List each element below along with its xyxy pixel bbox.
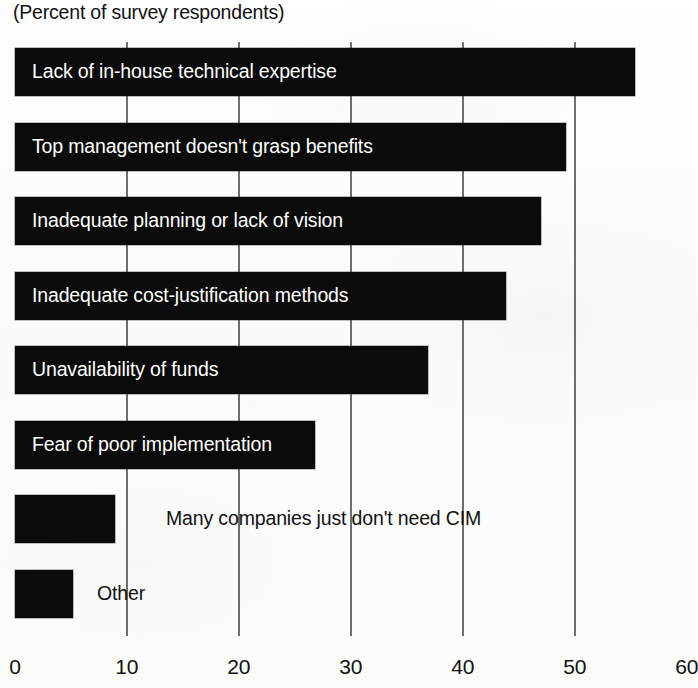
bar-7: [15, 495, 115, 543]
bar-8: [15, 570, 73, 618]
x-tick-label-20: 20: [227, 655, 250, 679]
bar-label-1: Lack of in-house technical expertise: [32, 60, 337, 83]
bar-label-7: Many companies just don't need CIM: [166, 507, 481, 530]
x-tick-label-0: 0: [9, 655, 20, 679]
x-tick-label-40: 40: [451, 655, 474, 679]
gridline-50: [574, 42, 576, 636]
bar-label-4: Inadequate cost-justification methods: [32, 284, 348, 307]
bar-label-3: Inadequate planning or lack of vision: [32, 209, 343, 232]
x-tick-label-10: 10: [115, 655, 138, 679]
x-tick-label-30: 30: [339, 655, 362, 679]
x-tick-label-60: 60: [675, 655, 698, 679]
bar-label-6: Fear of poor implementation: [32, 433, 272, 456]
bar-label-5: Unavailability of funds: [32, 358, 218, 381]
bar-label-2: Top management doesn't grasp benefits: [32, 135, 373, 158]
bar-label-8: Other: [97, 582, 145, 605]
x-tick-label-50: 50: [563, 655, 586, 679]
